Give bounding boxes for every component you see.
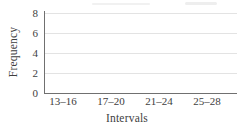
y-tick-label-2: 2 bbox=[0, 66, 38, 80]
frequency-histogram-chart: Frequency 8 6 4 2 0 13–16 17–20 21–24 25… bbox=[0, 0, 237, 128]
x-axis-title: Intervals bbox=[47, 111, 207, 125]
cropped-artifact bbox=[185, 2, 217, 5]
x-axis-tick-labels: 13–16 17–20 21–24 25–28 bbox=[39, 95, 231, 108]
x-tick-label-17-20: 17–20 bbox=[87, 95, 135, 108]
y-tick-label-8: 8 bbox=[0, 6, 38, 20]
gridline-6 bbox=[45, 33, 237, 34]
plot-area bbox=[44, 11, 237, 94]
y-tick-label-4: 4 bbox=[0, 46, 38, 60]
gridline-4 bbox=[45, 53, 237, 54]
y-tick-label-6: 6 bbox=[0, 26, 38, 40]
gridline-8 bbox=[45, 13, 237, 14]
x-tick-label-21-24: 21–24 bbox=[135, 95, 183, 108]
gridline-2 bbox=[45, 73, 237, 74]
x-tick-label-13-16: 13–16 bbox=[39, 95, 87, 108]
y-tick-label-0: 0 bbox=[0, 86, 38, 100]
x-tick-label-25-28: 25–28 bbox=[183, 95, 231, 108]
cropped-artifact bbox=[92, 3, 150, 5]
